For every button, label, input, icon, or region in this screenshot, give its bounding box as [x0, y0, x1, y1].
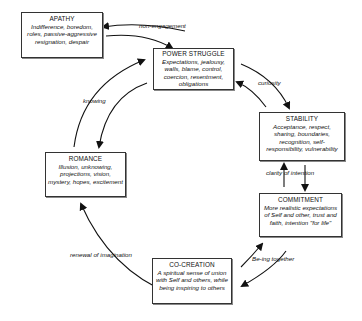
label-curiosity: curiosity [258, 79, 281, 86]
label-being-together: Be-ing together [252, 255, 294, 262]
node-title: COMMITMENT [262, 196, 339, 204]
label-clarity-of-intention: clarity of intention [266, 169, 314, 176]
label-renewal-of-imagination: renewal of imagination [70, 251, 132, 258]
node-description: Indifference, boredom, roles, passive-ag… [24, 23, 100, 45]
node-power-struggle: POWER STRUGGLE Expectations, jealousy, w… [153, 48, 234, 90]
arrow-power-to-romance [99, 83, 147, 147]
node-commitment: COMMITMENT More realistic expectations o… [259, 193, 342, 237]
node-title: STABILITY [262, 115, 342, 123]
node-romance: ROMANCE Illusion, unknowing, projections… [45, 152, 126, 197]
node-description: More realistic expectations of Self and … [262, 204, 339, 226]
node-description: Illusion, unknowing, projections, vision… [48, 163, 123, 185]
node-apathy: APATHY Indifference, boredom, roles, pas… [21, 12, 103, 58]
node-title: POWER STRUGGLE [156, 50, 231, 58]
node-stability: STABILITY Acceptance, respect, sharing, … [259, 112, 345, 161]
arrow-power-to-stability [241, 64, 289, 108]
arrow-apathy-to-power [106, 35, 172, 48]
label-non-engagement: non-engagement [139, 22, 186, 29]
node-title: APATHY [24, 15, 100, 23]
node-description: Acceptance, respect, sharing, boundaries… [262, 123, 342, 152]
label-knowing: knowing [83, 97, 106, 104]
node-co-creation: CO-CREATION A spiritual sense of union w… [152, 258, 232, 304]
node-title: CO-CREATION [155, 261, 229, 269]
node-title: ROMANCE [48, 155, 123, 163]
node-description: A spiritual sense of union with Self and… [155, 269, 229, 291]
node-description: Expectations, jealousy, walls, blame, co… [156, 58, 231, 87]
